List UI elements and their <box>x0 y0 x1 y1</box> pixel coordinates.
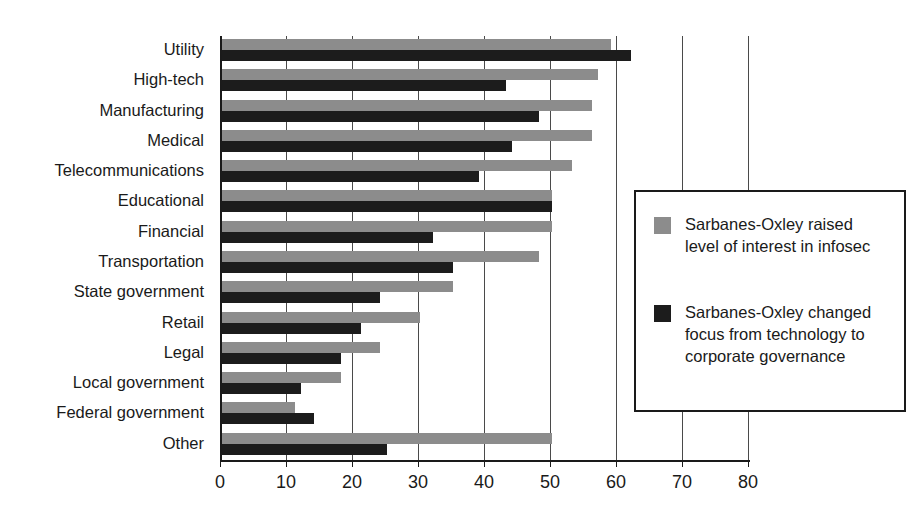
bar-high-tech-series-1 <box>222 80 506 91</box>
bar-telecommunications-series-0 <box>222 160 572 171</box>
tick-0 <box>220 460 221 467</box>
bar-transportation-series-1 <box>222 262 453 273</box>
x-tick-label: 0 <box>215 472 225 493</box>
tick-40 <box>484 460 485 467</box>
bar-transportation-series-0 <box>222 251 539 262</box>
bar-chart: UtilityHigh-techManufacturingMedicalTele… <box>0 0 919 520</box>
x-tick-label: 70 <box>672 472 692 493</box>
bar-retail-series-0 <box>222 312 420 323</box>
x-tick-label: 40 <box>474 472 494 493</box>
category-label-other: Other <box>163 435 204 452</box>
x-tick-label: 50 <box>540 472 560 493</box>
category-label-state-government: State government <box>74 283 204 300</box>
bar-state-government-series-0 <box>222 281 453 292</box>
category-label-local-government: Local government <box>73 374 204 391</box>
bar-other-series-1 <box>222 444 387 455</box>
category-label-medical: Medical <box>147 132 204 149</box>
tick-70 <box>682 460 683 467</box>
bar-local-government-series-0 <box>222 372 341 383</box>
tick-80 <box>748 460 749 467</box>
bar-federal-government-series-1 <box>222 413 314 424</box>
x-tick-label: 30 <box>408 472 428 493</box>
bar-educational-series-0 <box>222 190 552 201</box>
legend-entry-1: Sarbanes-Oxley changed focus from techno… <box>654 302 890 367</box>
legend: Sarbanes-Oxley raised level of interest … <box>634 190 906 412</box>
bar-medical-series-1 <box>222 141 512 152</box>
bar-legal-series-1 <box>222 353 341 364</box>
category-label-high-tech: High-tech <box>133 71 204 88</box>
tick-10 <box>286 460 287 467</box>
legend-label-0: Sarbanes-Oxley raised level of interest … <box>685 214 890 258</box>
category-axis-labels: UtilityHigh-techManufacturingMedicalTele… <box>0 36 212 460</box>
category-label-manufacturing: Manufacturing <box>99 102 204 119</box>
category-label-federal-government: Federal government <box>56 404 204 421</box>
category-label-transportation: Transportation <box>98 253 204 270</box>
bar-educational-series-1 <box>222 201 552 212</box>
bar-manufacturing-series-1 <box>222 111 539 122</box>
legend-entry-0: Sarbanes-Oxley raised level of interest … <box>654 214 890 258</box>
tick-50 <box>550 460 551 467</box>
category-label-legal: Legal <box>164 344 204 361</box>
bar-federal-government-series-0 <box>222 402 295 413</box>
bar-utility-series-1 <box>222 50 631 61</box>
bar-retail-series-1 <box>222 323 361 334</box>
x-tick-label: 10 <box>276 472 296 493</box>
category-label-retail: Retail <box>162 314 204 331</box>
category-label-educational: Educational <box>118 192 204 209</box>
bar-telecommunications-series-1 <box>222 171 479 182</box>
bar-other-series-0 <box>222 433 552 444</box>
legend-swatch-icon-0 <box>654 217 671 234</box>
bar-local-government-series-1 <box>222 383 301 394</box>
gridline-60 <box>616 36 617 460</box>
bar-high-tech-series-0 <box>222 69 598 80</box>
bar-medical-series-0 <box>222 130 592 141</box>
bar-state-government-series-1 <box>222 292 380 303</box>
category-label-financial: Financial <box>138 223 204 240</box>
category-label-utility: Utility <box>164 41 204 58</box>
tick-60 <box>616 460 617 467</box>
bar-utility-series-0 <box>222 39 611 50</box>
legend-swatch-icon-1 <box>654 305 671 322</box>
x-tick-label: 80 <box>738 472 758 493</box>
bar-legal-series-0 <box>222 342 380 353</box>
bar-financial-series-0 <box>222 221 552 232</box>
x-axis-line <box>220 460 750 462</box>
category-label-telecommunications: Telecommunications <box>55 162 204 179</box>
bar-manufacturing-series-0 <box>222 100 592 111</box>
bar-financial-series-1 <box>222 232 433 243</box>
tick-30 <box>418 460 419 467</box>
x-tick-label: 20 <box>342 472 362 493</box>
legend-label-1: Sarbanes-Oxley changed focus from techno… <box>685 302 890 367</box>
x-tick-label: 60 <box>606 472 626 493</box>
tick-20 <box>352 460 353 467</box>
